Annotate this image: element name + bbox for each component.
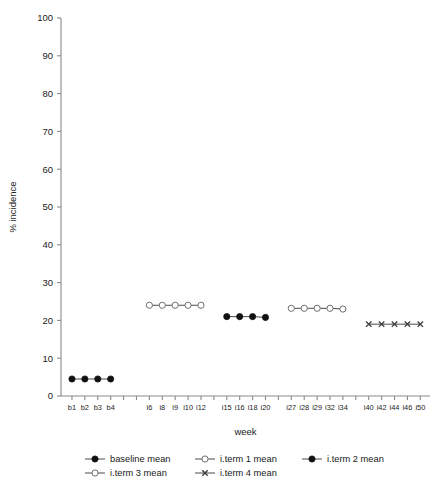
y-tick-label: 100 [37,12,53,23]
series-line [227,317,266,318]
legend-label: i.term 2 mean [327,454,384,464]
legend-item[interactable]: i.term 2 mean [302,454,384,464]
y-tick-label: 70 [42,126,53,137]
x-tick-label: i34 [338,403,348,412]
y-tick-label: 20 [42,315,53,326]
x-tick-label: i9 [172,403,178,412]
data-point [172,302,178,308]
legend-item[interactable]: baseline mean [85,454,170,464]
data-point [262,314,268,320]
series-5 [366,321,423,326]
series-1 [69,376,114,382]
y-tick-label: 90 [42,50,53,61]
data-point [159,302,165,308]
x-tick-label: b4 [107,403,115,412]
y-tick-label: 0 [48,390,53,401]
chart-canvas: 0102030405060708090100% incidenceb1b2b3b… [0,0,434,489]
x-tick-label: i8 [159,403,165,412]
x-tick-label: b2 [81,403,89,412]
data-point [301,305,307,311]
legend-label: i.term 3 mean [110,468,167,478]
data-point [327,305,333,311]
x-tick-label: b3 [94,403,102,412]
y-tick-label: 10 [42,353,53,364]
x-tick-label: i20 [261,403,271,412]
data-point [224,314,230,320]
data-point [314,305,320,311]
data-point [108,376,114,382]
legend-item[interactable]: i.term 4 mean [195,468,277,478]
x-tick-label: i32 [325,403,335,412]
x-tick-label: i46 [402,403,412,412]
legend-label: i.term 4 mean [220,468,277,478]
data-point [82,376,88,382]
x-tick-label: i50 [415,403,425,412]
series-2 [146,302,204,308]
x-tick-label: i27 [286,403,296,412]
x-tick-label: i16 [235,403,245,412]
series-4 [288,305,346,312]
y-tick-label: 60 [42,164,53,175]
legend-item[interactable]: i.term 3 mean [85,468,167,478]
x-tick-label: i18 [248,403,258,412]
y-tick-label: 50 [42,201,53,212]
x-tick-label: i12 [196,403,206,412]
data-point [185,302,191,308]
x-tick-label: i15 [222,403,232,412]
series-3 [224,314,269,321]
legend-label: i.term 1 mean [220,454,277,464]
data-point [146,302,152,308]
data-point [249,314,255,320]
y-tick-label: 30 [42,277,53,288]
y-tick-label: 40 [42,239,53,250]
data-point [198,302,204,308]
y-axis-title: % incidence [7,181,18,232]
x-tick-label: i10 [183,403,193,412]
y-tick-label: 80 [42,88,53,99]
legend-label: baseline mean [110,454,170,464]
x-tick-label: i6 [146,403,152,412]
legend-marker [309,456,315,462]
legend-marker [202,456,208,462]
legend-marker [92,456,98,462]
data-point [237,314,243,320]
x-tick-label: i40 [364,403,374,412]
x-tick-label: i29 [312,403,322,412]
x-tick-label: i28 [299,403,309,412]
legend-item[interactable]: i.term 1 mean [195,454,277,464]
x-tick-label: b1 [68,403,76,412]
data-point [340,306,346,312]
data-point [69,376,75,382]
x-tick-label: i44 [390,403,400,412]
data-point [95,376,101,382]
x-tick-label: i42 [377,403,387,412]
data-point [288,305,294,311]
legend-marker [92,470,98,476]
incidence-line-chart: 0102030405060708090100% incidenceb1b2b3b… [0,0,434,489]
x-axis-title: week [233,426,256,437]
